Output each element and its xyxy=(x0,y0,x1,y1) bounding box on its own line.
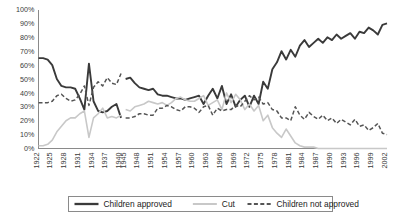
legend-item-label: Children not approved xyxy=(277,199,360,209)
x-tick-label: 1928 xyxy=(59,153,68,169)
x-tick-label: 1937 xyxy=(100,153,109,169)
x-tick-label: 1957 xyxy=(174,153,183,169)
x-tick-label: 1978 xyxy=(270,153,279,169)
line-chart: 100%90%80%70%60%50%40%30%20%10%0% 192219… xyxy=(0,0,401,221)
y-tick-label: 0% xyxy=(24,144,35,153)
x-tick-label: 1948 xyxy=(132,153,141,169)
x-axis-group: 1922192519281931193419371940194519481951… xyxy=(32,149,390,169)
x-tick-label: 1996 xyxy=(352,153,361,169)
y-axis-group: 100%90%80%70%60%50%40%30%20%10%0% xyxy=(16,5,38,153)
y-tick-label: 40% xyxy=(20,89,35,98)
legend-item-label: Children approved xyxy=(104,199,173,209)
y-tick-label: 80% xyxy=(20,33,35,42)
y-tick-label: 100% xyxy=(16,5,35,14)
x-tick-label: 1990 xyxy=(325,153,334,169)
legend-item-label: Cut xyxy=(222,199,236,209)
x-tick-label: 1960 xyxy=(187,153,196,169)
x-tick-label: 1925 xyxy=(45,153,54,169)
y-tick-label: 10% xyxy=(20,130,35,139)
y-tick-label: 60% xyxy=(20,61,35,70)
x-tick-label: 1984 xyxy=(297,153,306,169)
y-tick-label: 90% xyxy=(20,19,35,28)
x-tick-label: 1931 xyxy=(73,153,82,169)
x-tick-label: 2002 xyxy=(380,153,389,169)
x-tick-label: 1981 xyxy=(284,153,293,169)
x-tick-label: 1951 xyxy=(146,153,155,169)
y-tick-label: 70% xyxy=(20,47,35,56)
x-tick-label: 1966 xyxy=(215,153,224,169)
x-tick-label: 1963 xyxy=(201,153,210,169)
x-tick-label: 1987 xyxy=(311,153,320,169)
chart-legend: Children approvedCutChildren not approve… xyxy=(69,197,360,212)
x-tick-label: 1999 xyxy=(366,153,375,169)
x-tick-label: 1975 xyxy=(256,153,265,169)
x-tick-label: 1945 xyxy=(119,153,128,169)
chart-canvas: 100%90%80%70%60%50%40%30%20%10%0% 192219… xyxy=(0,0,401,221)
series-line xyxy=(39,23,388,118)
x-tick-label: 1954 xyxy=(160,153,169,169)
y-axis-tick-labels: 100%90%80%70%60%50%40%30%20%10%0% xyxy=(16,5,35,153)
data-series-group xyxy=(39,23,388,148)
x-tick-label: 1922 xyxy=(32,153,41,169)
x-tick-label: 1993 xyxy=(339,153,348,169)
y-tick-label: 20% xyxy=(20,116,35,125)
y-tick-label: 50% xyxy=(20,75,35,84)
x-tick-label: 1934 xyxy=(87,153,96,169)
x-tick-label: 1972 xyxy=(242,153,251,169)
y-tick-label: 30% xyxy=(20,102,35,111)
x-axis-tick-labels: 1922192519281931193419371940194519481951… xyxy=(32,153,390,169)
x-tick-label: 1969 xyxy=(229,153,238,169)
